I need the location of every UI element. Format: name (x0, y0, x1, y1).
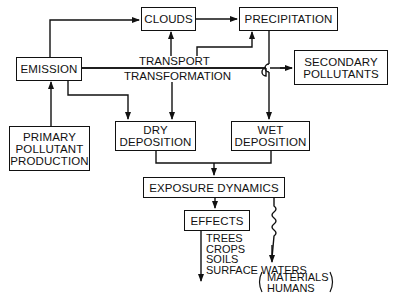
node-primary-pollutant-production: PRIMARY POLLUTANT PRODUCTION (9, 126, 90, 171)
node-dry-line1: DRY (143, 124, 167, 136)
node-dry-deposition: DRY DEPOSITION (115, 121, 196, 151)
effects-item-soils: SOILS (206, 254, 307, 265)
other-effects-humans: HUMANS (267, 283, 329, 294)
node-clouds: CLOUDS (141, 7, 196, 31)
other-effects-list: MATERIALS HUMANS (267, 272, 329, 294)
node-primary-line2: POLLUTANT (16, 143, 84, 155)
node-dry-line2: DEPOSITION (120, 136, 192, 148)
edge-transport-precipitation (197, 32, 252, 56)
node-emission-label: EMISSION (20, 63, 77, 75)
node-precipitation-label: PRECIPITATION (245, 13, 333, 25)
edge-emission-clouds (50, 20, 139, 58)
effects-item-trees: TREES (206, 233, 307, 244)
right-paren-icon (330, 272, 333, 292)
label-transformation: TRANSFORMATION (124, 70, 231, 82)
node-effects: EFFECTS (184, 210, 250, 231)
node-wet-deposition: WET DEPOSITION (231, 121, 310, 151)
node-exposure-dynamics: EXPOSURE DYNAMICS (143, 177, 285, 198)
node-exposure-label: EXPOSURE DYNAMICS (149, 182, 279, 194)
node-effects-label: EFFECTS (190, 215, 243, 227)
node-wet-line1: WET (258, 124, 284, 136)
effects-list: TREES CROPS SOILS SURFACE WATERS (206, 233, 307, 275)
label-transport: TRANSPORT (139, 55, 210, 67)
node-secondary-line2: POLLUTANTS (303, 68, 379, 80)
node-secondary-pollutants: SECONDARY POLLUTANTS (294, 50, 388, 85)
node-secondary-line1: SECONDARY (304, 56, 378, 68)
node-precipitation: PRECIPITATION (239, 7, 338, 31)
node-wet-line2: DEPOSITION (235, 136, 307, 148)
edge-dry-wet-merge (156, 150, 271, 163)
node-emission: EMISSION (16, 57, 82, 81)
edge-emission-dry (68, 81, 128, 119)
node-primary-line3: PRODUCTION (10, 155, 88, 167)
node-primary-line1: PRIMARY (23, 131, 76, 143)
node-clouds-label: CLOUDS (144, 13, 193, 25)
